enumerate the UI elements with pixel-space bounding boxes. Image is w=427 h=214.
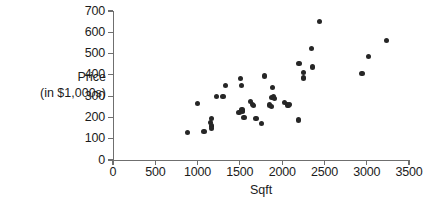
x-tick-label: 3500 (387, 166, 427, 179)
data-point (239, 83, 244, 88)
data-point (301, 75, 306, 80)
data-point (296, 61, 301, 66)
y-tick-label-wrap: 500 (59, 47, 105, 60)
y-axis-title-line-2: (in $1,000s) (0, 85, 106, 101)
y-tick-label: 200 (63, 111, 105, 124)
x-tick-label: 2500 (302, 166, 346, 179)
x-tick-label: 1500 (218, 166, 262, 179)
y-tick-label-wrap: 200 (59, 111, 105, 124)
data-point (262, 73, 267, 78)
x-tick-label: 500 (133, 166, 177, 179)
x-tick-label: 2000 (260, 166, 304, 179)
y-tick-label: 100 (63, 132, 105, 145)
data-point (296, 117, 301, 122)
data-point (301, 70, 306, 75)
y-tick-label: 600 (63, 26, 105, 39)
data-point (287, 102, 292, 107)
y-tick-label: 0 (63, 154, 105, 167)
y-tick-label-wrap: 0 (59, 154, 105, 167)
data-point (240, 109, 245, 114)
data-point (384, 38, 389, 43)
y-tick-label: 500 (63, 47, 105, 60)
data-point (241, 115, 246, 120)
data-point (272, 96, 277, 101)
y-tick-label-wrap: 100 (59, 132, 105, 145)
data-point (253, 116, 258, 121)
y-tick-label-wrap: 700 (59, 5, 105, 18)
y-tick-label: 700 (63, 5, 105, 18)
y-axis-title: Price (in $1,000s) (0, 69, 106, 101)
x-axis-line (113, 160, 409, 161)
x-axis-title: Sqft (113, 183, 409, 197)
y-axis-title-line-1: Price (0, 69, 106, 85)
data-point (214, 94, 219, 99)
x-tick-label: 3000 (345, 166, 389, 179)
data-point (220, 94, 225, 99)
x-tick-label: 1000 (176, 166, 220, 179)
x-tick-label: 0 (91, 166, 135, 179)
plot-area (113, 11, 409, 160)
y-tick-label-wrap: 600 (59, 26, 105, 39)
data-point (310, 64, 315, 69)
